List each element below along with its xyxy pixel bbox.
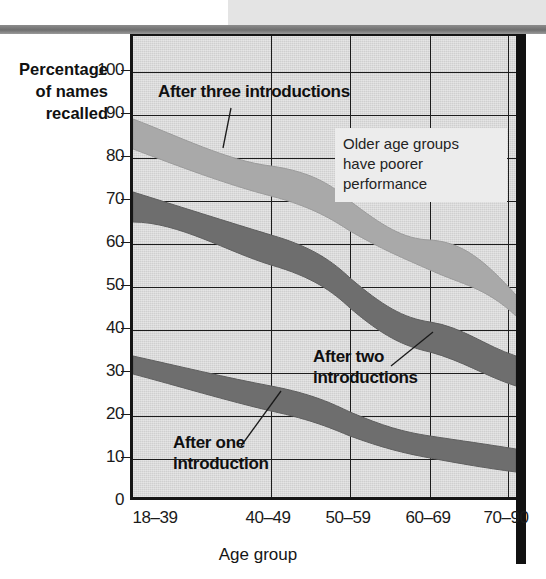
y-tick-90: 90 — [78, 103, 124, 123]
data-bands — [133, 36, 516, 500]
y-axis-tick-mark — [121, 70, 130, 71]
label-after-one-introduction: After one introduction — [173, 432, 269, 474]
y-axis-tick-mark — [121, 242, 130, 243]
callout-box: Older age groups have poorer performance — [335, 128, 507, 202]
x-tick-70-90: 70–90 — [458, 508, 546, 528]
label-after-two-introductions: After two introductions — [313, 346, 418, 388]
y-tick-40: 40 — [78, 318, 124, 338]
label-after-two-line-1: After two — [313, 346, 418, 367]
y-tick-60: 60 — [78, 232, 124, 252]
leader-line-after-three — [223, 108, 231, 148]
callout-line-2: have poorer performance — [343, 154, 499, 194]
y-tick-100: 100 — [78, 60, 124, 80]
y-tick-0: 0 — [78, 490, 124, 510]
y-tick-80: 80 — [78, 146, 124, 166]
y-axis-tick-mark — [121, 285, 130, 286]
right-edge-bar — [516, 34, 526, 564]
label-after-three-introductions: After three introductions — [158, 81, 350, 102]
header-rule — [0, 25, 546, 34]
callout-line-1: Older age groups — [343, 134, 499, 154]
y-tick-50: 50 — [78, 275, 124, 295]
y-axis-tick-mark — [121, 414, 130, 415]
y-tick-20: 20 — [78, 404, 124, 424]
label-after-one-line-2: introduction — [173, 453, 269, 474]
y-axis-tick-mark — [121, 113, 130, 114]
y-axis-tick-mark — [121, 199, 130, 200]
y-tick-30: 30 — [78, 361, 124, 381]
x-axis-title: Age group — [0, 545, 516, 565]
y-axis-tick-mark — [121, 457, 130, 458]
label-after-two-line-2: introductions — [313, 367, 418, 388]
y-axis-title-line-2: of names — [0, 80, 108, 102]
y-tick-70: 70 — [78, 189, 124, 209]
x-tick-18-39: 18–39 — [107, 508, 203, 528]
y-axis-tick-mark — [121, 156, 130, 157]
y-axis-tick-mark — [121, 371, 130, 372]
y-tick-10: 10 — [78, 447, 124, 467]
label-after-one-line-1: After one — [173, 432, 269, 453]
chart-page: Percentage of names recalled 100 90 80 7… — [0, 0, 546, 579]
plot-area: After three introductions After two intr… — [130, 34, 516, 500]
y-axis-tick-mark — [121, 328, 130, 329]
